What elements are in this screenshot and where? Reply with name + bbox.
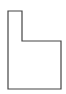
diagram-canvas [0,0,66,94]
l-shape-outline [8,11,61,89]
